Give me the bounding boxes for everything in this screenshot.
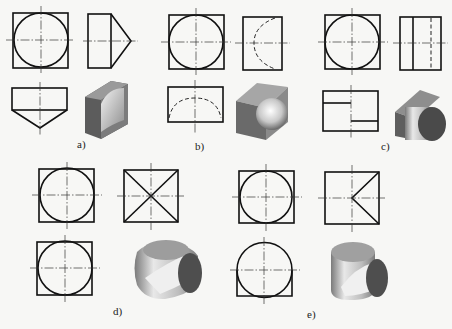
- panel-b-top-view: [168, 80, 223, 133]
- panel-a-label: a): [77, 138, 86, 151]
- panel-b: b): [161, 8, 290, 153]
- panel-e: e): [230, 164, 388, 321]
- orthographic-projection-figure: a) b): [0, 0, 452, 329]
- panel-b-front-view: [161, 8, 231, 76]
- panel-b-label: b): [195, 140, 205, 153]
- panel-e-top-view: [230, 237, 300, 306]
- panel-b-side-view: [235, 17, 290, 70]
- panel-e-3d-solid: [331, 242, 388, 300]
- panel-d-label: d): [113, 305, 123, 318]
- panel-a: a): [6, 6, 138, 151]
- panel-c-top-view: [323, 85, 378, 138]
- panel-d-3d-solid: [135, 240, 203, 299]
- panel-e-front-view: [232, 164, 302, 231]
- panel-c-front-view: [318, 8, 388, 76]
- panel-c: c): [318, 8, 448, 153]
- panel-a-front-view: [6, 6, 74, 73]
- panel-c-side-view: [393, 17, 448, 70]
- panel-d-front-view: [32, 162, 102, 230]
- panel-e-side-view: [318, 165, 387, 232]
- panel-a-top-view: [12, 82, 67, 135]
- panel-d-side-view: [117, 163, 186, 230]
- panel-b-3d-solid: [236, 83, 288, 140]
- panel-c-label: c): [381, 140, 390, 153]
- panel-a-side-view: [83, 14, 138, 68]
- panel-c-3d-solid: [395, 90, 446, 141]
- panel-a-3d-solid: [85, 81, 128, 139]
- panel-d: d): [30, 162, 202, 318]
- panel-e-label: e): [307, 308, 316, 321]
- panel-d-top-view: [30, 235, 100, 302]
